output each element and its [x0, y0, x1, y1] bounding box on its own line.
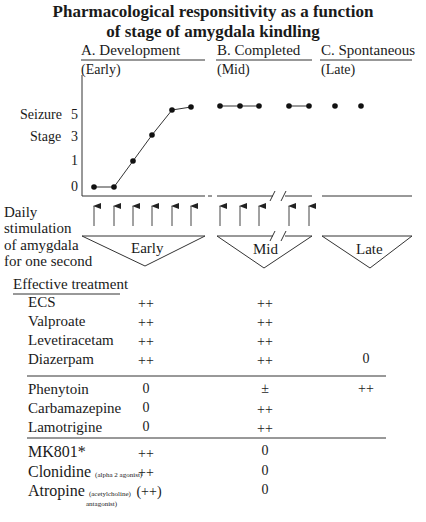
levetiracetam-mid: ++: [250, 334, 280, 350]
diazerpam-early: ++: [131, 353, 161, 369]
carbamazepine-mid: ++: [250, 402, 280, 418]
effective-treatment-header: Effective treatment: [13, 276, 128, 293]
drug-mk801: MK801*: [28, 443, 86, 461]
side-label-2: stimulation: [4, 220, 72, 236]
drug-phenytoin: Phenytoin: [28, 381, 89, 398]
triangle-label-early: Early: [131, 240, 163, 257]
valproate-mid: ++: [250, 315, 280, 331]
mk801-mid: 0: [250, 443, 280, 459]
atropine-note: (acetylcholine): [89, 490, 131, 498]
ecs-early: ++: [131, 296, 161, 312]
diazerpam-mid: ++: [250, 353, 280, 369]
ecs-mid: ++: [250, 296, 280, 312]
clonidine-early: ++: [131, 465, 161, 481]
levetiracetam-early: ++: [131, 334, 161, 350]
drug-carbamazepine: Carbamazepine: [28, 400, 121, 417]
atropine-name: Atropine: [28, 482, 85, 499]
carbamazepine-early: 0: [131, 400, 161, 416]
development-curve: [94, 107, 191, 187]
phenytoin-early: 0: [131, 381, 161, 397]
diazerpam-late: 0: [351, 351, 381, 367]
phenytoin-mid: ±: [250, 381, 280, 397]
drug-atropine: Atropine (acetylcholine): [28, 482, 131, 500]
mk801-early: ++: [131, 446, 161, 462]
drug-clonidine: Clonidine (alpha 2 agonist): [28, 463, 142, 481]
triangle-label-late: Late: [356, 241, 383, 258]
atropine-note-2: antagonist): [86, 500, 117, 508]
atropine-mid: 0: [250, 482, 280, 498]
clonidine-name: Clonidine: [28, 463, 91, 480]
lamotrigine-early: 0: [131, 419, 161, 435]
drug-diazerpam: Diazerpam: [28, 351, 94, 368]
triangle-label-mid: Mid: [253, 241, 278, 258]
drug-lamotrigine: Lamotrigine: [28, 419, 102, 436]
drug-ecs: ECS: [28, 294, 56, 311]
clonidine-mid: 0: [250, 463, 280, 479]
side-label-3: of amygdala: [4, 237, 79, 253]
side-label-4: for one second: [4, 253, 92, 269]
drug-valproate: Valproate: [28, 313, 85, 330]
valproate-early: ++: [131, 315, 161, 331]
lamotrigine-mid: ++: [250, 421, 280, 437]
side-label-1: Daily: [4, 204, 37, 220]
phenytoin-late: ++: [351, 381, 381, 397]
atropine-early: (++): [134, 484, 164, 500]
drug-levetiracetam: Levetiracetam: [28, 332, 114, 349]
